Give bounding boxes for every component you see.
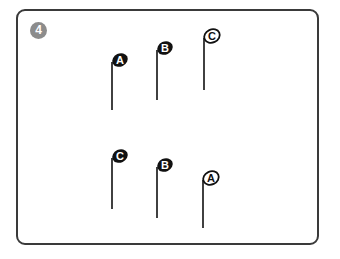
note-label: A xyxy=(207,172,215,184)
music-note-bottom-a: A xyxy=(0,0,340,259)
